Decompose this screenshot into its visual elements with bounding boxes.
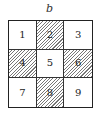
figure-label: b bbox=[0, 3, 99, 15]
cell-label: 9 bbox=[75, 88, 81, 98]
grid-cell-2-hatched: 2 bbox=[37, 21, 65, 50]
cell-label: 7 bbox=[19, 88, 25, 98]
grid-cell-9: 9 bbox=[64, 78, 92, 107]
grid-cell-4-hatched: 4 bbox=[9, 50, 37, 79]
cell-label: 8 bbox=[47, 88, 53, 98]
grid-cell-1: 1 bbox=[9, 21, 37, 50]
grid-cell-7: 7 bbox=[9, 78, 37, 107]
cell-label: 4 bbox=[19, 58, 25, 68]
grid-cell-3: 3 bbox=[64, 21, 92, 50]
cell-label: 5 bbox=[47, 58, 53, 68]
grid-cell-8-hatched: 8 bbox=[37, 78, 65, 107]
cell-label: 6 bbox=[75, 58, 81, 68]
grid-cell-5: 5 bbox=[37, 50, 65, 79]
cell-label: 3 bbox=[75, 30, 81, 40]
cell-label: 2 bbox=[47, 30, 53, 40]
cell-label: 1 bbox=[19, 30, 25, 40]
grid-cell-6-hatched: 6 bbox=[64, 50, 92, 79]
number-grid: 1 2 3 4 5 6 7 8 9 bbox=[8, 20, 93, 108]
